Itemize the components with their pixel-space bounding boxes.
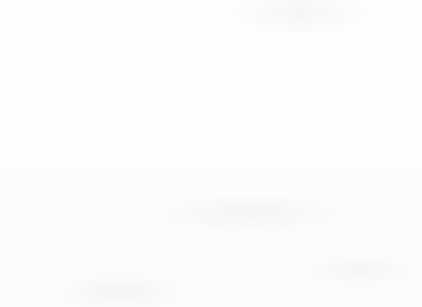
y-axis-tick-label: 90 bbox=[67, 52, 78, 63]
bar-1900-france bbox=[277, 153, 307, 258]
bar-2013-india bbox=[385, 106, 415, 258]
y-axis-tick bbox=[82, 102, 87, 103]
y-axis-tick bbox=[82, 236, 87, 237]
y-axis-tick bbox=[82, 169, 87, 170]
y-axis-tick bbox=[82, 213, 87, 214]
chart-legend: 1900 2013 bbox=[337, 25, 393, 59]
y-axis-tick-label: 50 bbox=[67, 141, 78, 152]
plot-area: 0102030405060708090UnitedStatesUnitedKin… bbox=[87, 57, 405, 258]
y-axis-tick-label: 40 bbox=[67, 163, 78, 174]
legend-swatch-1900 bbox=[337, 26, 365, 37]
bar-2013-france bbox=[307, 73, 337, 258]
bar-1900-india bbox=[355, 195, 385, 258]
y-axis-tick bbox=[82, 57, 87, 58]
legend-label-1900: 1900 bbox=[372, 26, 393, 37]
y-axis-tick bbox=[82, 79, 87, 80]
y-axis-title-line-1: Life expectancy bbox=[0, 4, 80, 15]
bar-2013-united-states bbox=[135, 79, 165, 258]
y-axis-tick-label: 10 bbox=[67, 230, 78, 241]
y-axis-tick-label: 0 bbox=[73, 253, 78, 264]
legend-item-1900: 1900 bbox=[337, 25, 393, 38]
y-axis-tick bbox=[82, 146, 87, 147]
bar-1900-united-kingdom bbox=[192, 151, 222, 258]
y-axis-title-line-3: (years) bbox=[0, 27, 80, 38]
legend-swatch-2013 bbox=[337, 43, 365, 54]
y-axis-tick-label: 60 bbox=[67, 119, 78, 130]
y-axis-tick-label: 30 bbox=[67, 186, 78, 197]
bar-2013-united-kingdom bbox=[222, 77, 252, 258]
y-axis-title-line-2: at birth bbox=[0, 15, 80, 26]
y-axis-tick-label: 80 bbox=[67, 74, 78, 85]
x-axis-line bbox=[87, 258, 405, 259]
y-axis-tick bbox=[82, 124, 87, 125]
y-axis-tick-label: 20 bbox=[67, 208, 78, 219]
legend-item-2013: 2013 bbox=[337, 42, 393, 55]
y-axis-tick bbox=[82, 258, 87, 259]
y-axis-tick bbox=[82, 191, 87, 192]
legend-label-2013: 2013 bbox=[372, 43, 393, 54]
bar-1900-united-states bbox=[105, 151, 135, 258]
y-axis-title: Life expectancy at birth (years) bbox=[0, 4, 80, 38]
y-axis-tick-label: 70 bbox=[67, 96, 78, 107]
